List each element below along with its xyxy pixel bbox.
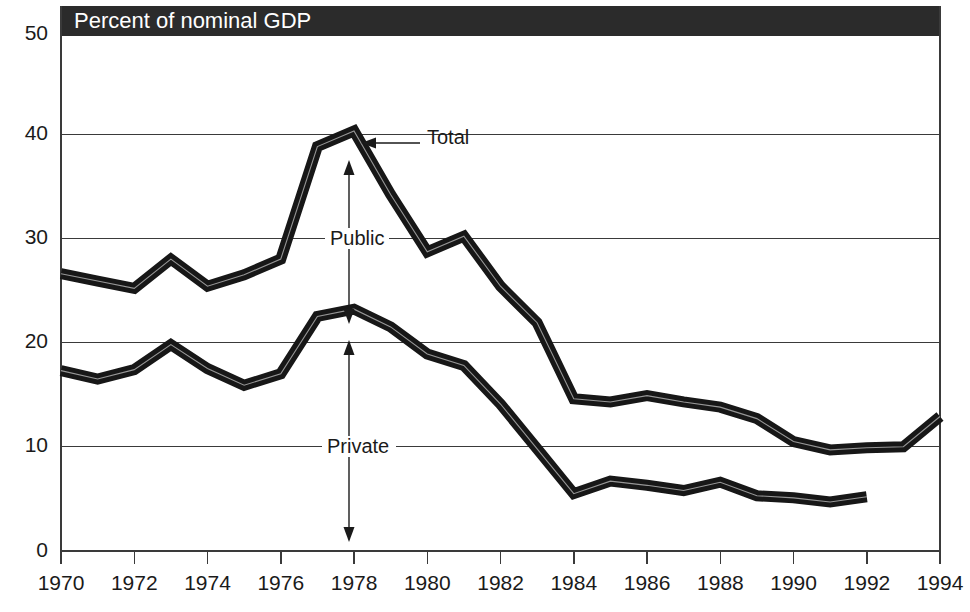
x-tick-marks [61,551,940,564]
ytick-label-20: 20 [25,329,48,352]
ytick-label-10: 10 [25,433,48,456]
x-tick-labels: 1970 1972 1974 1976 1978 1980 1982 1984 … [38,571,964,594]
chart-figure: Percent of nominal GDP [0,0,970,612]
xtick-label-1990: 1990 [770,571,817,594]
public-label: Public [330,227,384,249]
ytick-label-30: 30 [25,225,48,248]
xtick-label-1974: 1974 [184,571,231,594]
xtick-label-1994: 1994 [917,571,964,594]
xtick-label-1972: 1972 [111,571,158,594]
ytick-label-40: 40 [25,121,48,144]
total-label: Total [427,126,469,148]
xtick-label-1986: 1986 [624,571,671,594]
ytick-label-0: 0 [36,538,48,561]
xtick-label-1976: 1976 [257,571,304,594]
xtick-label-1984: 1984 [550,571,597,594]
xtick-label-1992: 1992 [844,571,891,594]
xtick-label-1978: 1978 [331,571,378,594]
private-label: Private [327,435,389,457]
ytick-label-50: 50 [25,21,48,44]
header-title: Percent of nominal GDP [74,8,311,33]
gdp-line-chart: Percent of nominal GDP [0,0,970,612]
chart-header-bar: Percent of nominal GDP [61,6,940,36]
xtick-label-1988: 1988 [697,571,744,594]
xtick-label-1982: 1982 [477,571,524,594]
y-tick-labels: 50 40 30 20 10 0 [25,21,48,561]
xtick-label-1970: 1970 [38,571,85,594]
xtick-label-1980: 1980 [404,571,451,594]
